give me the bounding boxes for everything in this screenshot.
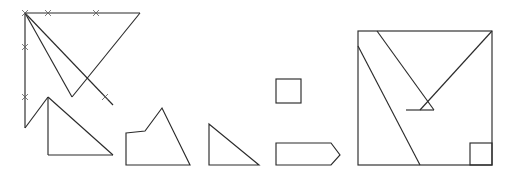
figure-right-triangle-group[interactable] (203, 118, 265, 170)
figure-2-hitbox[interactable] (120, 102, 196, 170)
figure-4b-hitbox[interactable] (270, 137, 346, 171)
figure-mountain-polygon-group[interactable] (120, 102, 196, 170)
figure-arrow-pentagon-group[interactable] (270, 137, 346, 171)
geometric-shapes-svg (0, 0, 512, 178)
figure-tangram-square-group[interactable] (352, 25, 498, 171)
diagram-canvas (0, 0, 512, 178)
figure-small-square-group[interactable] (270, 73, 307, 109)
figure-1-hitbox[interactable] (14, 5, 124, 165)
